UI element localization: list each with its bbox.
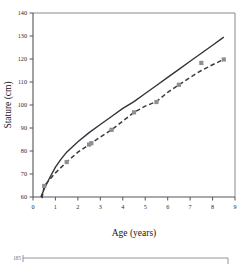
x-axis-title: Age (years) [112, 228, 157, 239]
data-point-marker [222, 57, 226, 61]
y-tick-label-120: 120 [18, 55, 27, 62]
y-tick-label-140: 140 [18, 9, 27, 16]
next-figure-tick-label: 185 [13, 255, 21, 261]
data-point-marker [89, 141, 93, 145]
data-point-marker [132, 110, 136, 114]
y-tick-label-90: 90 [21, 124, 27, 131]
x-tick-label-1: 1 [54, 203, 57, 210]
y-tick-label-130: 130 [18, 32, 27, 39]
next-figure-top-edge: 185 [13, 255, 228, 264]
x-tick-label-0: 0 [31, 203, 34, 210]
y-tick-label-60: 60 [21, 193, 27, 200]
x-tick-label-3: 3 [99, 203, 102, 210]
plot-frame [33, 13, 235, 197]
x-tick-label-6: 6 [166, 203, 169, 210]
x-tick-label-7: 7 [189, 203, 192, 210]
y-tick-label-80: 80 [21, 147, 27, 154]
reference-curve [41, 37, 224, 197]
x-tick-label-9: 9 [233, 203, 236, 210]
data-point-marker [109, 128, 113, 132]
y-tick-label-110: 110 [18, 78, 27, 85]
data-point-marker [154, 100, 158, 104]
patient-curve [42, 59, 224, 198]
data-point-marker [199, 61, 203, 65]
data-series-layer [41, 37, 224, 198]
x-tick-label-8: 8 [211, 203, 214, 210]
x-tick-label-4: 4 [121, 203, 124, 210]
y-axis-ticks: 140 130 120 110 100 90 80 70 60 [18, 9, 33, 200]
y-tick-label-70: 70 [21, 170, 27, 177]
y-axis-title: Stature (cm) [3, 81, 14, 128]
data-point-marker [42, 184, 46, 188]
y-tick-label-100: 100 [18, 101, 27, 108]
x-tick-label-2: 2 [76, 203, 79, 210]
x-axis-ticks: 0 1 2 3 4 5 6 7 8 9 [31, 197, 236, 210]
x-tick-label-5: 5 [144, 203, 147, 210]
data-point-marker [177, 83, 181, 87]
growth-chart-figure: 140 130 120 110 100 90 80 70 60 0 1 [0, 0, 248, 265]
chart-canvas: 140 130 120 110 100 90 80 70 60 0 1 [0, 0, 248, 265]
data-points-layer [42, 57, 226, 188]
data-point-marker [65, 160, 69, 164]
